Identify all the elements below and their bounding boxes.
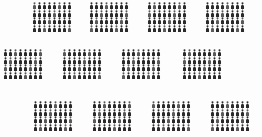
person-figure-icon — [124, 10, 129, 18]
pictogram-block — [210, 101, 250, 131]
pictogram-row — [205, 10, 245, 18]
pictogram-block — [182, 49, 222, 79]
pictogram-row — [92, 109, 132, 117]
pictogram-row — [33, 116, 73, 124]
pictogram-row — [89, 10, 129, 18]
pictogram-block — [121, 49, 161, 79]
person-figure-icon — [156, 72, 161, 80]
person-figure-icon — [127, 101, 132, 109]
person-figure-icon — [217, 64, 222, 72]
pictogram-block — [205, 2, 245, 32]
pictogram-row — [210, 109, 250, 117]
person-figure-icon — [127, 116, 132, 124]
pictogram-row — [62, 49, 102, 57]
pictogram-block — [33, 101, 73, 131]
person-figure-icon — [217, 72, 222, 80]
person-figure-icon — [156, 64, 161, 72]
pictogram-row — [205, 2, 245, 10]
person-figure-icon — [240, 10, 245, 18]
person-figure-icon — [217, 49, 222, 57]
person-figure-icon — [217, 57, 222, 65]
person-figure-icon — [182, 25, 187, 33]
person-figure-icon — [67, 2, 72, 10]
pictogram-row — [62, 64, 102, 72]
person-figure-icon — [97, 57, 102, 65]
person-figure-icon — [240, 2, 245, 10]
person-figure-icon — [240, 17, 245, 25]
pictogram-row — [89, 17, 129, 25]
person-figure-icon — [182, 17, 187, 25]
pictogram-row — [62, 57, 102, 65]
pictogram-row — [32, 2, 72, 10]
pictogram-row — [33, 124, 73, 132]
person-figure-icon — [38, 64, 43, 72]
pictogram-row — [32, 25, 72, 33]
person-figure-icon — [124, 25, 129, 33]
pictogram-row — [151, 109, 191, 117]
person-figure-icon — [245, 116, 250, 124]
pictogram-block — [89, 2, 129, 32]
person-figure-icon — [245, 109, 250, 117]
pictogram-row — [151, 124, 191, 132]
person-figure-icon — [38, 72, 43, 80]
person-figure-icon — [97, 49, 102, 57]
person-figure-icon — [245, 101, 250, 109]
pictogram-row — [32, 17, 72, 25]
person-figure-icon — [124, 2, 129, 10]
person-figure-icon — [97, 64, 102, 72]
pictogram-row — [92, 124, 132, 132]
pictogram-block — [147, 2, 187, 32]
pictogram-row — [92, 116, 132, 124]
pictogram-row — [3, 49, 43, 57]
pictogram-block — [92, 101, 132, 131]
pictogram-row — [3, 72, 43, 80]
person-figure-icon — [182, 10, 187, 18]
pictogram-row — [121, 64, 161, 72]
pictogram-row — [33, 109, 73, 117]
pictogram-canvas — [0, 0, 262, 137]
pictogram-row — [182, 49, 222, 57]
pictogram-row — [205, 25, 245, 33]
person-figure-icon — [182, 2, 187, 10]
pictogram-row — [89, 25, 129, 33]
pictogram-row — [151, 101, 191, 109]
pictogram-row — [121, 72, 161, 80]
person-figure-icon — [245, 124, 250, 132]
pictogram-row — [3, 64, 43, 72]
pictogram-row — [147, 10, 187, 18]
person-figure-icon — [124, 17, 129, 25]
person-figure-icon — [67, 25, 72, 33]
person-figure-icon — [156, 49, 161, 57]
person-figure-icon — [68, 124, 73, 132]
person-figure-icon — [156, 57, 161, 65]
person-figure-icon — [240, 25, 245, 33]
person-figure-icon — [127, 109, 132, 117]
pictogram-row — [89, 2, 129, 10]
pictogram-row — [121, 49, 161, 57]
pictogram-row — [32, 10, 72, 18]
pictogram-row — [182, 64, 222, 72]
pictogram-row — [182, 57, 222, 65]
pictogram-block — [151, 101, 191, 131]
pictogram-row — [210, 116, 250, 124]
pictogram-row — [182, 72, 222, 80]
pictogram-row — [210, 124, 250, 132]
pictogram-row — [33, 101, 73, 109]
person-figure-icon — [186, 101, 191, 109]
person-figure-icon — [97, 72, 102, 80]
pictogram-row — [92, 101, 132, 109]
person-figure-icon — [186, 116, 191, 124]
person-figure-icon — [38, 57, 43, 65]
pictogram-row — [121, 57, 161, 65]
person-figure-icon — [127, 124, 132, 132]
pictogram-block — [62, 49, 102, 79]
pictogram-block — [3, 49, 43, 79]
person-figure-icon — [186, 124, 191, 132]
pictogram-row — [62, 72, 102, 80]
person-figure-icon — [68, 101, 73, 109]
pictogram-row — [3, 57, 43, 65]
person-figure-icon — [67, 17, 72, 25]
pictogram-row — [151, 116, 191, 124]
pictogram-block — [32, 2, 72, 32]
pictogram-row — [210, 101, 250, 109]
